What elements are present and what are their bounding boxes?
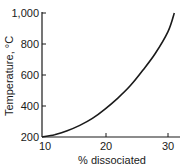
y-tick-800: 800 — [21, 38, 39, 50]
y-axis: 1,000 800 600 400 200 Temperature, °C — [3, 7, 46, 143]
data-curve — [42, 13, 174, 137]
y-tick-400: 400 — [21, 100, 39, 112]
y-tick-600: 600 — [21, 69, 39, 81]
y-tick-1000: 1,000 — [11, 7, 39, 19]
x-tick-30: 30 — [162, 140, 174, 152]
x-tick-10: 10 — [39, 140, 51, 152]
chart: 1,000 800 600 400 200 Temperature, °C 10… — [0, 0, 189, 167]
x-tick-20: 20 — [100, 140, 112, 152]
x-axis-label: % dissociated — [78, 154, 146, 166]
y-tick-200: 200 — [21, 131, 39, 143]
x-axis: 10 20 30 % dissociated — [39, 133, 180, 166]
y-axis-label: Temperature, °C — [3, 36, 15, 116]
